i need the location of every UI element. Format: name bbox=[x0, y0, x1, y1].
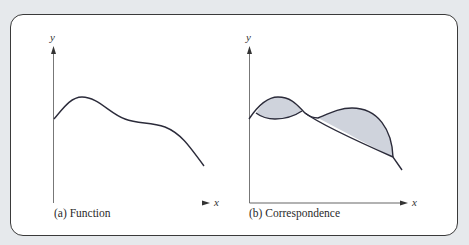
function-curve bbox=[54, 97, 204, 166]
x-axis bbox=[54, 201, 211, 206]
y-axis bbox=[51, 46, 56, 203]
arrow-up-icon bbox=[247, 46, 252, 54]
panel-b bbox=[247, 46, 408, 206]
y-axis-label: y bbox=[50, 31, 55, 43]
x-axis bbox=[250, 201, 409, 206]
arrow-right-icon bbox=[400, 201, 408, 206]
arrow-right-icon bbox=[202, 201, 210, 206]
x-axis-label: x bbox=[214, 196, 219, 208]
shaded-region-1 bbox=[256, 97, 302, 119]
shaded-region-2 bbox=[318, 108, 393, 157]
y-axis-label: y bbox=[246, 31, 251, 43]
caption-function: (a) Function bbox=[54, 207, 111, 219]
arrow-up-icon bbox=[51, 46, 56, 54]
x-axis-label: x bbox=[412, 196, 417, 208]
y-axis bbox=[247, 46, 252, 203]
panel-a bbox=[51, 46, 210, 206]
caption-correspondence: (b) Correspondence bbox=[249, 207, 340, 219]
